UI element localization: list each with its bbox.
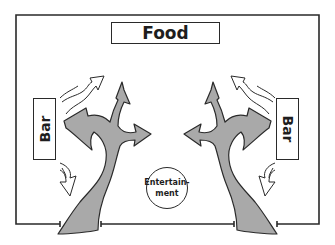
bar-left-label: Bar (37, 115, 53, 142)
bar-zone-right: Bar (276, 98, 299, 160)
food-label: Food (142, 23, 188, 43)
bar-zone-left: Bar (33, 98, 56, 160)
entertainment-label-line2: ment (155, 188, 178, 199)
left-bar-up-arrow (60, 76, 104, 114)
right-bar-up-arrow (231, 76, 275, 114)
right-bar-down-arrow (259, 163, 275, 196)
left-bar-down-arrow (60, 163, 76, 196)
food-zone: Food (111, 22, 220, 44)
entertainment-zone: Entertain- ment (146, 167, 188, 209)
bar-right-label: Bar (280, 115, 296, 142)
entertainment-label-line1: Entertain- (144, 177, 189, 188)
